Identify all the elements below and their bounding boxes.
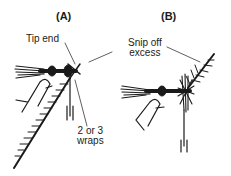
leader-line-wraps [75,80,87,126]
panel-b-drawing [121,47,214,152]
wrap-segment-icon [48,66,56,76]
hook-bend-icon [16,79,50,112]
leader-line-snip [89,52,112,62]
hackle-pliers-icon [181,110,187,152]
leader-line-tip-end [65,43,75,64]
hackle-feather-icon [14,78,70,168]
panel-b-label: (B) [161,10,176,22]
callout-snip-off-excess: Snip off excess [128,38,162,58]
callout-wraps: 2 or 3 wraps [77,126,104,146]
wrap-segment-icon [158,86,166,96]
callout-tip-end: Tip end [26,34,59,44]
panel-a-label: (A) [56,10,71,22]
leader-line-snip-b [167,47,200,62]
fly-tying-illustration [0,0,231,176]
hook-bend-icon [136,99,160,130]
panel-a-drawing [14,43,112,168]
